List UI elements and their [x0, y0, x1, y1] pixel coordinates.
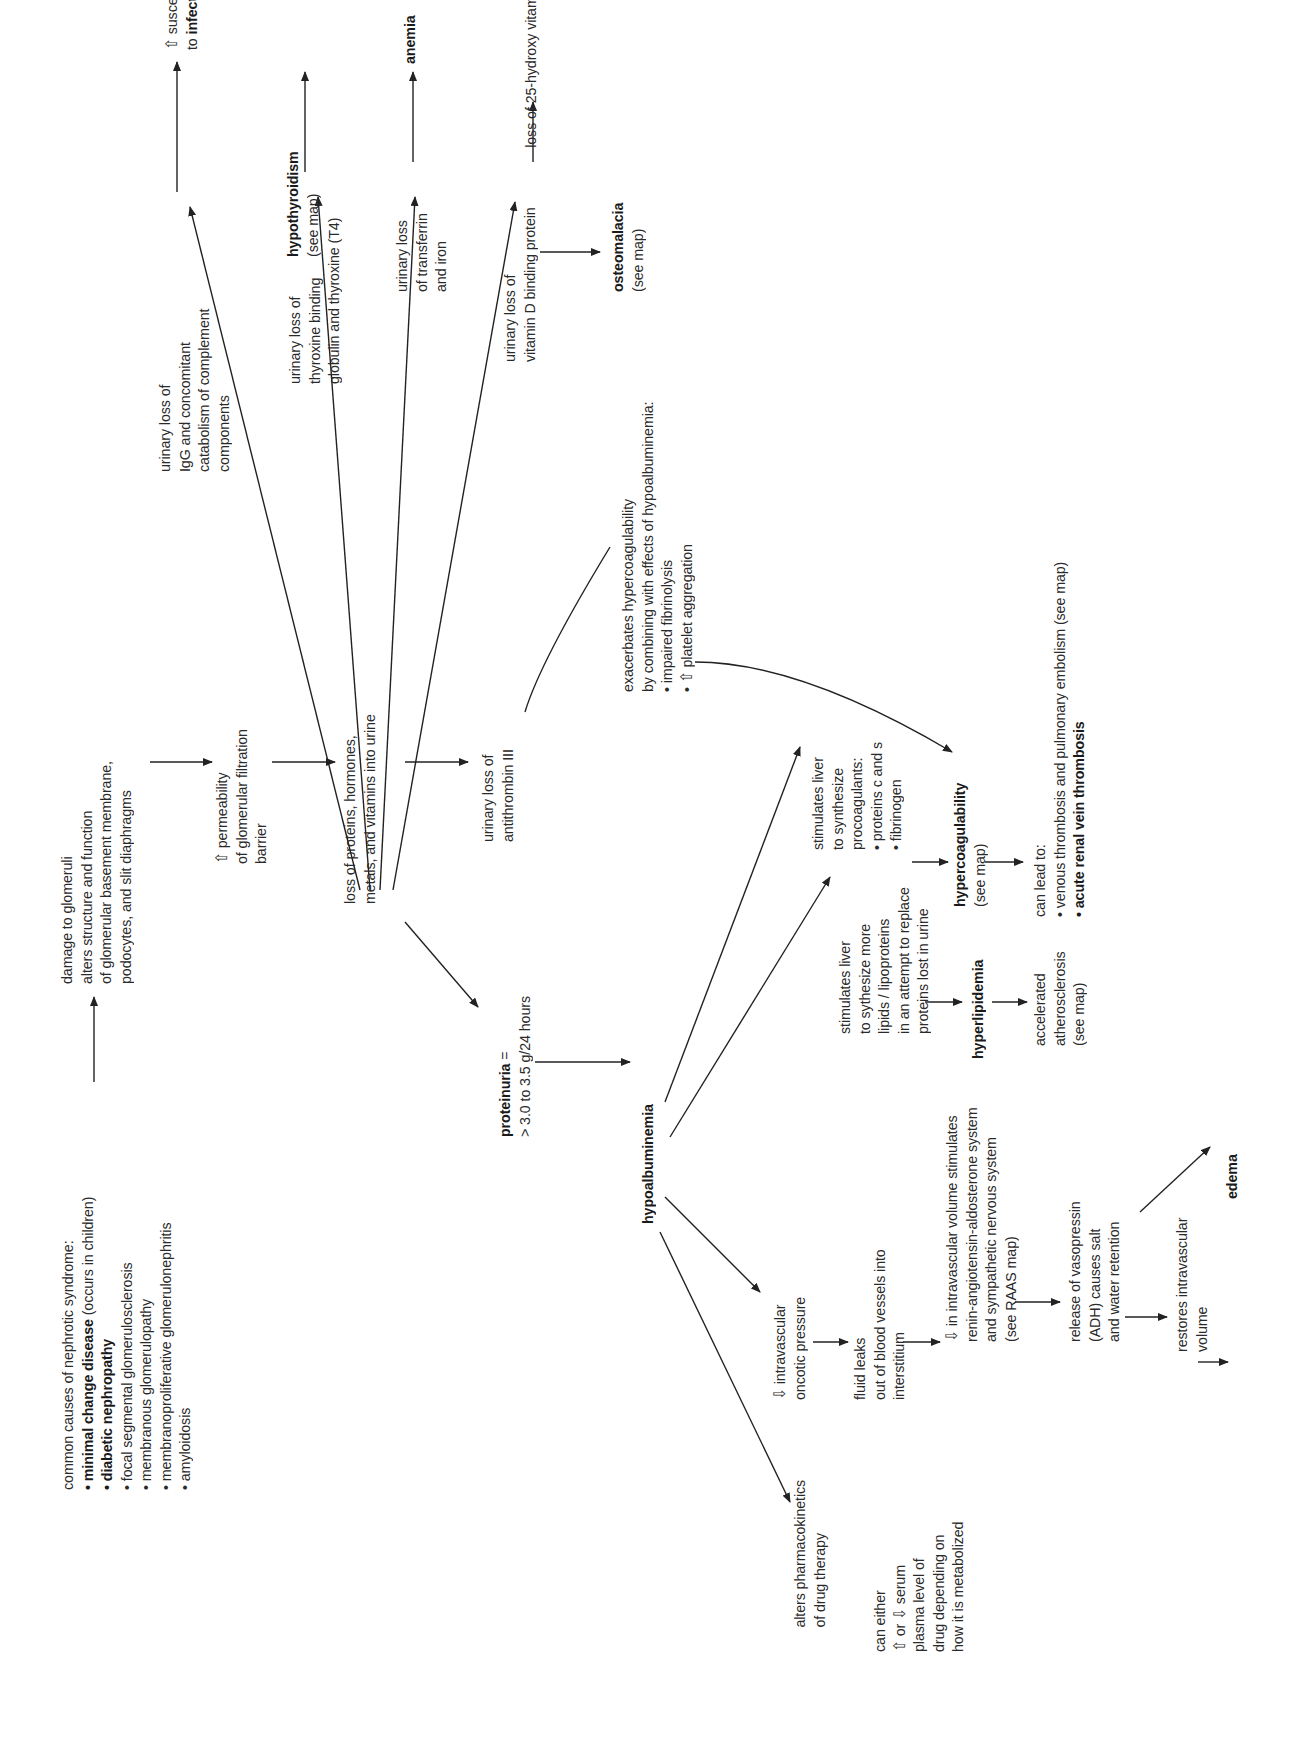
cause-item: • membranoproliferative glomerulonephrit… [156, 1197, 176, 1490]
curve-antithrombin-to-exacerbates [525, 547, 610, 712]
node-loss-25-hydroxy-vitd: loss of 25-hydroxy vitamin D [521, 0, 541, 148]
curve-exacerbates-to-hypercoagulability [695, 662, 952, 752]
node-hyperlipidemia: hyperlipidemia [968, 960, 988, 1059]
node-proteinuria: proteinuria = > 3.0 to 3.5 g/24 hours [495, 996, 534, 1137]
cause-item: • diabetic nephropathy [97, 1197, 117, 1490]
node-exacerbates-hypercoagulability: exacerbates hypercoagulability by combin… [618, 402, 696, 692]
cause-item: • amyloidosis [175, 1197, 195, 1490]
node-procoagulants: stimulates liver to synthesize procoagul… [808, 742, 906, 850]
node-restores-volume: restores intravascular volume [1172, 1218, 1211, 1352]
node-edema: edema [1222, 1154, 1242, 1199]
node-drug-plasma-level: can either ⇧ or ⇩ serum plasma level of … [870, 1522, 968, 1652]
cause-item: • minimal change disease (occurs in chil… [78, 1197, 98, 1490]
node-permeability: ⇧ permeability of glomerular filtration … [212, 729, 271, 864]
arrow-loss-to-transferrin [380, 197, 415, 890]
node-common-causes: common causes of nephrotic syndrome: • m… [58, 1197, 195, 1490]
node-hypothyroidism: hypothyroidism (see map) [283, 151, 322, 257]
node-anemia: anemia [400, 15, 420, 64]
node-fluid-leaks: fluid leaks out of blood vessels into in… [850, 1249, 909, 1400]
node-urinary-loss-vitd-bp: urinary loss of vitamin D binding protei… [500, 207, 539, 362]
node-atherosclerosis: accelerated atherosclerosis (see map) [1030, 951, 1089, 1046]
node-damage-to-glomeruli: damage to glomeruli alters structure and… [57, 761, 135, 984]
node-urinary-loss-transferrin: urinary loss of transferrin and iron [392, 213, 451, 292]
diagram-connectors [0, 0, 1301, 1762]
nephrotic-syndrome-concept-map: common causes of nephrotic syndrome: • m… [0, 0, 1301, 1762]
causes-title: common causes of nephrotic syndrome: [58, 1197, 78, 1490]
node-vasopressin-release: release of vasopressin (ADH) causes salt… [1065, 1201, 1124, 1342]
arrow-hypoalbuminemia-to-oncotic [665, 1197, 760, 1292]
node-osteomalacia: osteomalacia (see map) [608, 203, 647, 292]
node-hypoalbuminemia: hypoalbuminemia [638, 1104, 658, 1224]
node-can-lead-to: can lead to: • venous thrombosis and pul… [1030, 562, 1089, 917]
node-infection: ⇧ susceptibility to infection (especiall… [162, 0, 201, 50]
node-raas-stimulation: ⇩ in intravascular volume stimulates ren… [942, 1108, 1020, 1342]
arrow-hypoalbuminemia-to-lipids [670, 877, 830, 1137]
node-urinary-loss-antithrombin: urinary loss of antithrombin III [478, 749, 517, 842]
node-loss-into-urine: loss of proteins, hormones, metals, and … [340, 714, 379, 904]
node-urinary-loss-igg: urinary loss of IgG and concomitant cata… [155, 309, 233, 472]
arrow-loss-to-proteinuria [405, 922, 478, 1007]
node-stimulates-lipids: stimulates liver to sythesize more lipid… [835, 887, 933, 1034]
node-oncotic-pressure: ⇩ intravascular oncotic pressure [770, 1297, 809, 1400]
arrow-adh-to-edema [1140, 1147, 1210, 1212]
node-hypercoagulability: hypercoagulability (see map) [950, 783, 989, 907]
node-pharmacokinetics: alters pharmacokinetics of drug therapy [790, 1480, 829, 1628]
cause-item: • membranous glomerulopathy [136, 1197, 156, 1490]
cause-item: • focal segmental glomerulosclerosis [117, 1197, 137, 1490]
arrow-hypoalbuminemia-to-procoag [665, 747, 800, 1102]
